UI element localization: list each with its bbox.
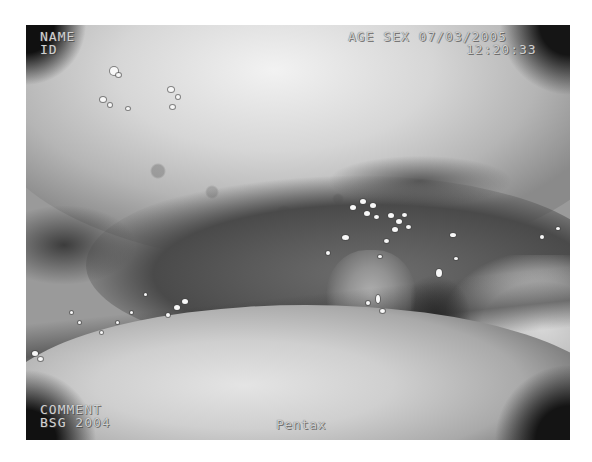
left-cavity-shadow (26, 205, 136, 285)
endoscopy-image (26, 25, 570, 440)
overlay-time: 12:20:33 (466, 43, 537, 56)
palatal-arch-shadow (316, 145, 570, 235)
overlay-id-label: ID (40, 43, 58, 56)
overlay-comment-value: BSG 2004 (40, 416, 111, 429)
overlay-brand-label: Pentax (276, 418, 326, 431)
